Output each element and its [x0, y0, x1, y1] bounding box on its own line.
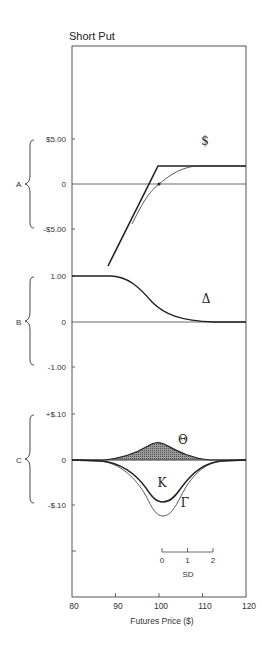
brace-a-icon	[25, 140, 34, 228]
sd-scale: 0 1 2 SD	[160, 548, 216, 579]
xtick-110: 110	[198, 601, 212, 611]
sd-label: SD	[182, 570, 193, 579]
xtick-90: 90	[113, 601, 123, 611]
ytick-a-bottom: -$5.00	[43, 225, 66, 234]
ytick-a-top: $5.00	[46, 135, 67, 144]
ytick-c-top: +$.10	[46, 410, 67, 419]
curve-label-dollar: $	[201, 134, 209, 148]
x-axis-label: Futures Price ($)	[130, 616, 193, 626]
xtick-80: 80	[69, 601, 79, 611]
ytick-c-zero: 0	[62, 456, 67, 465]
ytick-a-zero: 0	[62, 180, 67, 189]
ytick-c-bottom: -$.10	[48, 501, 67, 510]
section-b: B 1.00 0 -1.00 Δ	[16, 272, 246, 372]
curve-label-delta: Δ	[202, 292, 211, 306]
sd-tick-1: 1	[185, 556, 190, 565]
section-label-a: A	[16, 180, 22, 189]
pnl-today-curve	[132, 166, 246, 224]
brace-c-icon	[25, 415, 34, 503]
section-c: C +$.10 0 -$.10 Θ K Γ	[16, 410, 246, 516]
delta-curve	[72, 276, 246, 322]
curve-label-kappa: K	[158, 476, 168, 490]
section-a: A $5.00 0 -$5.00 $	[16, 134, 246, 266]
brace-b-icon	[25, 277, 34, 365]
ytick-b-top: 1.00	[50, 272, 66, 281]
x-axis: 80 90 100 110 120 Futures Price ($)	[69, 593, 256, 626]
xtick-120: 120	[242, 601, 256, 611]
curve-label-theta: Θ	[178, 433, 188, 447]
sd-tick-0: 0	[160, 556, 165, 565]
breakeven-dot	[158, 183, 161, 186]
section-label-b: B	[16, 318, 21, 327]
ytick-b-zero: 0	[62, 318, 67, 327]
sd-tick-2: 2	[211, 556, 216, 565]
xtick-100: 100	[154, 601, 168, 611]
chart-canvas: A $5.00 0 -$5.00 $ B 1.00 0 -1.00 Δ C +$…	[0, 0, 273, 660]
curve-label-gamma: Γ	[181, 496, 189, 510]
pnl-expiration-line	[108, 166, 246, 266]
section-label-c: C	[16, 456, 22, 465]
ytick-b-bottom: -1.00	[48, 363, 67, 372]
